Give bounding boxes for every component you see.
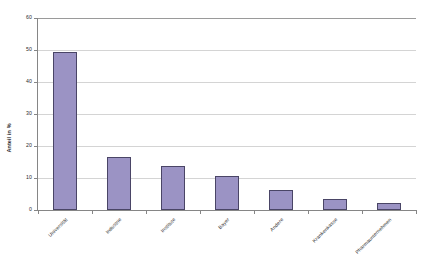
bar-chart: Anteil in % 0102030405060 UniversitätInd… (0, 0, 426, 276)
bar-slot (161, 18, 185, 210)
bar[interactable] (107, 157, 131, 210)
x-tick-mark (200, 210, 201, 214)
bar[interactable] (53, 52, 77, 210)
x-tick-mark (146, 210, 147, 214)
y-tick-label: 10 (26, 175, 32, 180)
x-tick-label: Krankenkasse (312, 217, 339, 244)
x-tick-label: Pharmaunternehmen (355, 217, 393, 255)
plot-area: 0102030405060 UniversitätIndustrieInstit… (37, 18, 416, 211)
bar-slot (269, 18, 293, 210)
y-axis-title: Anteil in % (6, 123, 12, 152)
bar-slot (377, 18, 401, 210)
bar-slot (215, 18, 239, 210)
x-tick-mark (308, 210, 309, 214)
x-tick-label: Institute (160, 217, 177, 234)
x-tick-label: Andere (269, 217, 284, 232)
x-tick-label: Universität (48, 217, 69, 238)
y-tick-label: 40 (26, 79, 32, 84)
bar[interactable] (215, 176, 239, 210)
y-tick-label: 50 (26, 47, 32, 52)
bar-slot (107, 18, 131, 210)
x-tick-mark (38, 210, 39, 214)
bar-slot (53, 18, 77, 210)
x-tick-label: Bayer (217, 217, 230, 230)
y-tick-label: 20 (26, 143, 32, 148)
bars-layer (38, 18, 416, 210)
x-tick-mark (416, 210, 417, 214)
x-tick-label: Industrie (105, 217, 123, 235)
bar-slot (323, 18, 347, 210)
y-tick-label: 60 (26, 15, 32, 20)
x-tick-mark (254, 210, 255, 214)
bar[interactable] (161, 166, 185, 210)
y-tick-label: 30 (26, 111, 32, 116)
y-tick-label: 0 (29, 207, 32, 212)
x-tick-mark (92, 210, 93, 214)
x-tick-mark (362, 210, 363, 214)
